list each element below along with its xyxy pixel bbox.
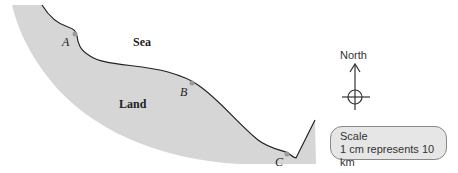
north-compass: North: [340, 49, 370, 110]
sea-label: Sea: [133, 35, 151, 49]
point-c-label: C: [275, 155, 284, 169]
point-a-label: A: [61, 35, 70, 49]
north-label: North: [340, 49, 367, 61]
point-a-marker: [73, 32, 78, 37]
point-c-marker: [285, 152, 290, 157]
point-b-label: B: [180, 85, 188, 99]
scale-legend: Scale 1 cm represents 10 km: [330, 126, 447, 160]
point-b-marker: [190, 81, 195, 86]
land-label: Land: [119, 97, 147, 111]
land-region: [12, 5, 316, 164]
scale-text: 1 cm represents 10 km: [340, 143, 446, 169]
scale-title: Scale: [340, 130, 446, 143]
